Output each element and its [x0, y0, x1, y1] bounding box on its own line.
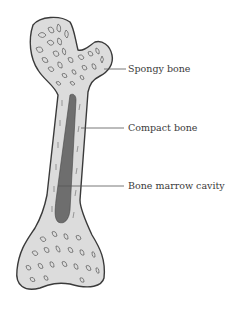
femur-illustration — [0, 0, 228, 309]
label-compact-bone: Compact bone — [128, 123, 197, 133]
label-spongy-bone: Spongy bone — [128, 64, 190, 74]
label-marrow-cavity: Bone marrow cavity — [128, 181, 225, 191]
femur-diagram: Spongy bone Compact bone Bone marrow cav… — [0, 0, 228, 309]
